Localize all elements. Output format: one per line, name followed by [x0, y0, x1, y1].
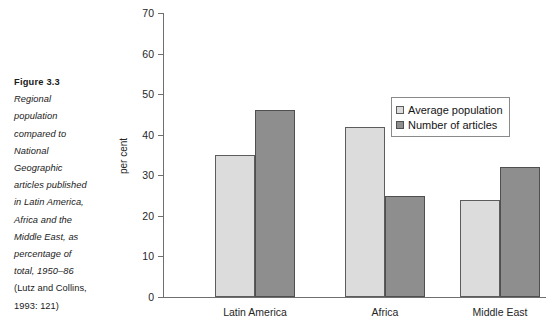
figure-caption-line: National — [14, 143, 110, 160]
figure-caption-line: total, 1950–86 — [14, 263, 110, 280]
legend-item[interactable]: Number of articles — [396, 117, 503, 132]
y-axis-tick — [158, 256, 163, 257]
bar — [255, 110, 295, 297]
y-axis-tick-label: 0 — [148, 291, 154, 303]
y-axis-tick-label: 50 — [142, 88, 154, 100]
bar — [385, 196, 425, 297]
legend-label: Average population — [408, 104, 503, 116]
y-axis-line — [163, 13, 164, 298]
figure-3-3: Figure 3.3 Regionalpopulationcompared to… — [0, 0, 552, 332]
figure-caption-line: population — [14, 108, 110, 125]
x-axis-category-label: Latin America — [223, 306, 287, 318]
y-axis-tick-label: 60 — [142, 48, 154, 60]
figure-caption-line: in Latin America, — [14, 194, 110, 211]
x-axis-category-label: Africa — [372, 306, 399, 318]
bar — [500, 167, 540, 297]
figure-caption-line: Regional — [14, 91, 110, 108]
y-axis-tick — [158, 54, 163, 55]
bar-group — [215, 13, 295, 297]
figure-caption-body: Regionalpopulationcompared toNationalGeo… — [14, 91, 110, 315]
legend-swatch-icon — [396, 106, 404, 114]
legend-item[interactable]: Average population — [396, 102, 503, 117]
y-axis-tick — [158, 135, 163, 136]
y-axis-tick — [158, 13, 163, 14]
bar-group — [460, 13, 540, 297]
bar — [215, 155, 255, 297]
y-axis-tick — [158, 216, 163, 217]
figure-caption-line: compared to — [14, 126, 110, 143]
legend-label: Number of articles — [408, 119, 497, 131]
figure-caption: Figure 3.3 Regionalpopulationcompared to… — [14, 74, 110, 315]
figure-caption-line: (Lutz and Collins, — [14, 280, 110, 297]
y-axis-tick-label: 70 — [142, 7, 154, 19]
bar-group — [345, 13, 425, 297]
figure-caption-line: Geographic — [14, 160, 110, 177]
y-axis-tick — [158, 94, 163, 95]
figure-caption-line: Africa and the — [14, 212, 110, 229]
x-axis-category-label: Middle East — [473, 306, 528, 318]
y-axis-tick-label: 10 — [142, 250, 154, 262]
x-axis-line — [163, 297, 546, 298]
chart-legend: Average populationNumber of articles — [391, 97, 510, 137]
figure-caption-line: Middle East, as — [14, 229, 110, 246]
figure-caption-title: Figure 3.3 — [14, 74, 110, 91]
y-axis-title: per cent — [118, 137, 129, 173]
y-axis-tick — [158, 175, 163, 176]
figure-caption-line: articles published — [14, 177, 110, 194]
y-axis-tick — [158, 297, 163, 298]
figure-caption-line: 1993: 121) — [14, 298, 110, 315]
bar — [345, 127, 385, 297]
bar — [460, 200, 500, 297]
legend-swatch-icon — [396, 121, 404, 129]
y-axis-tick-label: 20 — [142, 210, 154, 222]
bar-chart-plot-area: per cent 010203040506070 Latin AmericaAf… — [163, 13, 546, 298]
y-axis-tick-label: 40 — [142, 129, 154, 141]
y-axis-tick-label: 30 — [142, 169, 154, 181]
figure-caption-line: percentage of — [14, 246, 110, 263]
